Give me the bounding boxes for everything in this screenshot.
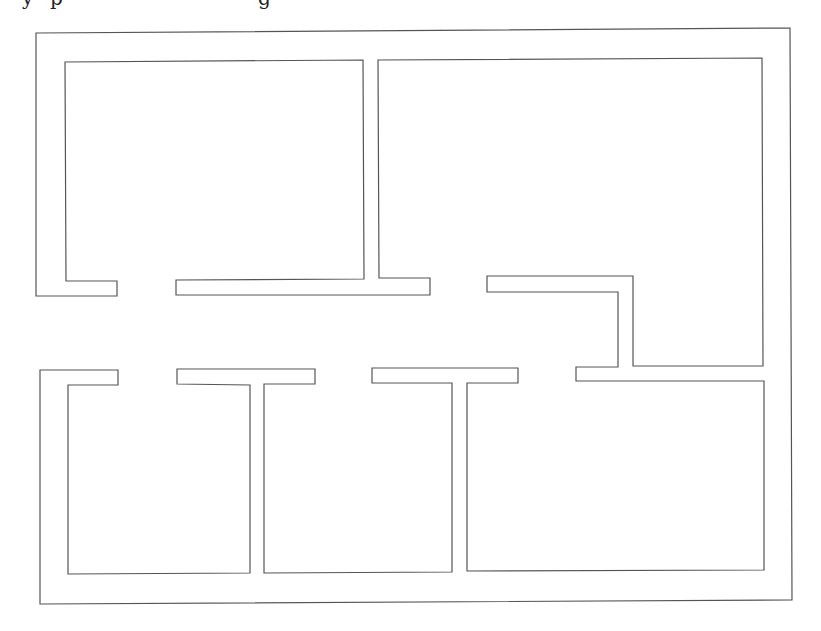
bottom-right-room (467, 381, 764, 570)
top-right-room (379, 60, 762, 366)
floor-plan (0, 0, 821, 631)
rooms (66, 60, 764, 573)
top-left-room (66, 62, 363, 280)
bottom-middle-room (264, 384, 452, 572)
bottom-left-room (68, 385, 250, 573)
